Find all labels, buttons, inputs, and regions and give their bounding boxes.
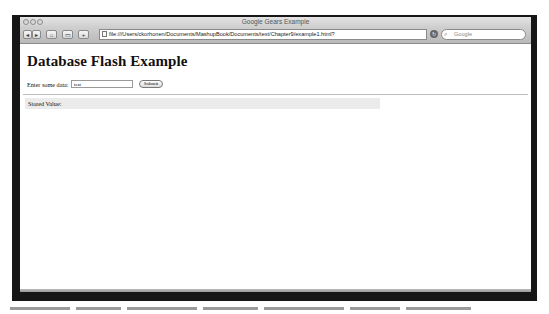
bookmarks-icon: ▭	[65, 32, 71, 38]
home-button[interactable]: ⌂	[46, 30, 57, 39]
divider	[23, 94, 528, 95]
forward-button[interactable]: ▸	[32, 30, 41, 39]
title-bar: Google Gears Example	[20, 17, 531, 27]
reload-icon: ↻	[432, 31, 436, 37]
page-title: Database Flash Example	[27, 53, 188, 70]
home-icon: ⌂	[50, 32, 54, 38]
data-input[interactable]	[71, 80, 133, 88]
url-text: file:///Users/ckorhonen/Documents/Mashup…	[109, 31, 335, 37]
browser-toolbar: ◂ ▸ ⌂ ▭ + file:///Users/ckorhonen/Docume…	[20, 27, 531, 44]
add-bookmark-button[interactable]: +	[78, 30, 89, 39]
stored-value-label: Stored Value:	[28, 100, 61, 107]
window-title: Google Gears Example	[20, 17, 531, 27]
bookmarks-button[interactable]: ▭	[62, 30, 73, 39]
data-input-label: Enter some data:	[27, 81, 69, 88]
plus-icon: +	[82, 32, 86, 38]
submit-button[interactable]: Submit	[139, 80, 163, 88]
search-field[interactable]: ⌕ Google	[441, 29, 526, 40]
back-button[interactable]: ◂	[23, 30, 32, 39]
browser-window: Google Gears Example ◂ ▸ ⌂ ▭ + file:///U…	[20, 17, 531, 292]
figure-caption-clipped	[10, 304, 540, 314]
data-form: Enter some data: Submit	[27, 80, 69, 89]
back-arrow-icon: ◂	[26, 32, 29, 38]
page-content: Database Flash Example Enter some data: …	[20, 44, 531, 289]
search-icon: ⌕	[444, 30, 447, 39]
forward-arrow-icon: ▸	[35, 32, 38, 38]
status-bar	[20, 289, 531, 292]
address-bar[interactable]: file:///Users/ckorhonen/Documents/Mashup…	[99, 29, 427, 40]
page-icon	[102, 31, 107, 37]
search-placeholder: Google	[454, 31, 472, 37]
stored-value-box: Stored Value:	[25, 98, 380, 109]
reload-button[interactable]: ↻	[430, 30, 438, 38]
